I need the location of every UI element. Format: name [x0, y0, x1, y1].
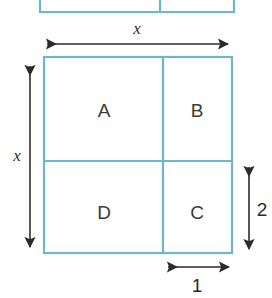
region-label-b: B: [191, 101, 204, 120]
region-label-d: D: [97, 203, 111, 222]
region-label-c: C: [190, 203, 204, 222]
main-square-outline: [44, 57, 232, 253]
region-label-a: A: [98, 101, 111, 120]
dimension-label-right-height: 2: [257, 200, 268, 219]
dimension-label-left-height: x: [13, 147, 21, 164]
top-partial-rectangle: [40, 0, 234, 12]
geometry-figure: [0, 0, 272, 298]
dimension-label-bottom-width: 1: [192, 276, 203, 295]
dimension-label-top-width: x: [133, 20, 141, 37]
figure-canvas: A B D C x x 2 1: [0, 0, 272, 298]
top-partial-rectangle-outline: [40, 0, 234, 12]
